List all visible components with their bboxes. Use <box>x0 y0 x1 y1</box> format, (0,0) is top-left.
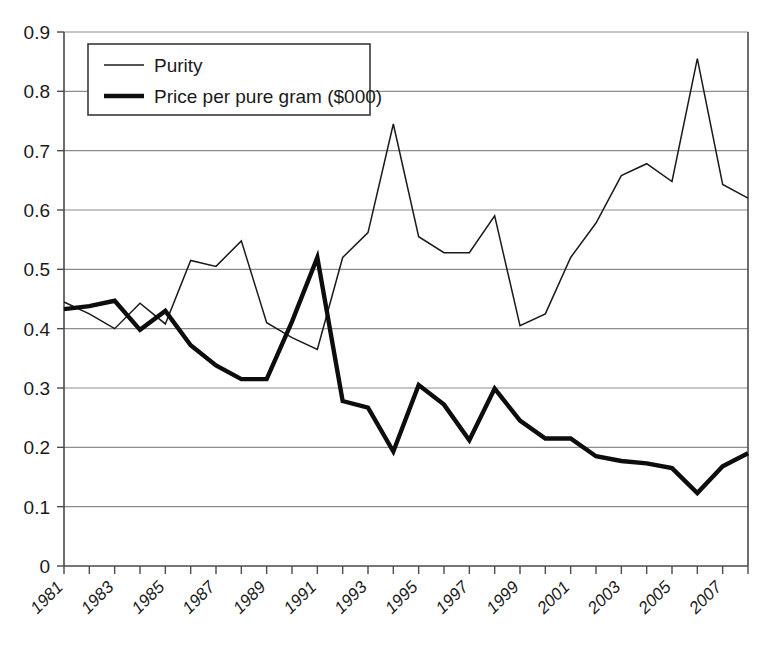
chart-svg: 0.90.80.70.60.50.40.30.20.10 19811983198… <box>0 0 775 663</box>
x-tick-label: 1991 <box>280 577 320 617</box>
x-tick-label: 1999 <box>483 577 524 618</box>
y-tick-label: 0.9 <box>24 22 50 43</box>
line-chart: 0.90.80.70.60.50.40.30.20.10 19811983198… <box>0 0 775 663</box>
y-tick-label: 0 <box>39 556 50 577</box>
x-tick-label: 2005 <box>634 577 675 618</box>
x-tick-label: 1983 <box>77 577 118 618</box>
y-tick-label: 0.4 <box>24 319 51 340</box>
chart-legend: Purity Price per pure gram ($000) <box>88 44 382 115</box>
x-tick-label: 2007 <box>685 577 726 618</box>
y-tick-label: 0.8 <box>24 81 50 102</box>
x-tick-label: 1993 <box>331 577 372 618</box>
x-tick-label: 2001 <box>533 577 574 618</box>
y-tick-label: 0.2 <box>24 437 50 458</box>
y-axis-tick-labels: 0.90.80.70.60.50.40.30.20.10 <box>24 22 51 577</box>
legend-label-purity: Purity <box>154 55 203 76</box>
y-tick-label: 0.1 <box>24 497 50 518</box>
y-tick-label: 0.7 <box>24 141 50 162</box>
x-tick-label: 2003 <box>583 577 624 618</box>
x-tick-label: 1987 <box>179 577 220 618</box>
x-tick-label: 1997 <box>432 577 473 618</box>
y-tick-label: 0.6 <box>24 200 50 221</box>
x-tick-label: 1981 <box>27 577 67 617</box>
x-tick-label: 1985 <box>128 577 169 618</box>
x-tick-label: 1989 <box>229 577 270 618</box>
y-tick-label: 0.5 <box>24 259 50 280</box>
y-tick-marks <box>57 32 64 566</box>
x-axis-tick-labels: 1981198319851987198919911993199519971999… <box>27 577 726 618</box>
series-line-price-per-pure-gram <box>64 257 748 493</box>
x-tick-label: 1995 <box>381 577 422 618</box>
legend-label-price: Price per pure gram ($000) <box>154 86 382 107</box>
x-tick-marks <box>64 566 748 574</box>
y-tick-label: 0.3 <box>24 378 50 399</box>
